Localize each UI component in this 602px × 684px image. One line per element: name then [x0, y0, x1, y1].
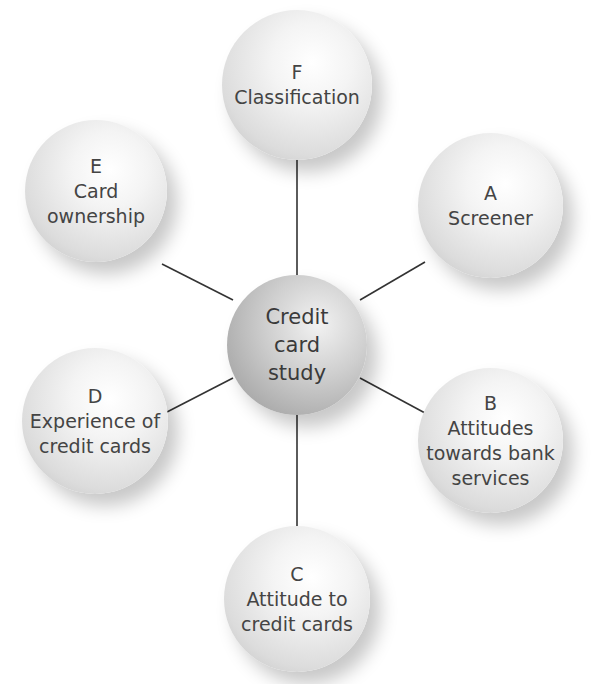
node-e-letter: E: [90, 154, 102, 179]
node-b-label-line-3: services: [452, 466, 530, 491]
center-node-credit-card-study: Credit card study: [227, 275, 367, 415]
node-d-experience-credit-cards: D Experience of credit cards: [22, 348, 168, 494]
center-label-line-3: study: [268, 359, 326, 387]
node-a-letter: A: [484, 181, 497, 206]
node-e-label-line-2: ownership: [47, 204, 145, 229]
node-d-label-line-2: credit cards: [39, 434, 151, 459]
node-c-label-line-2: credit cards: [241, 612, 353, 637]
hub-spoke-diagram: Credit card study F Classification A Scr…: [0, 0, 602, 684]
center-label-line-2: card: [274, 331, 320, 359]
node-e-label-line-1: Card: [74, 179, 118, 204]
center-label-line-1: Credit: [265, 303, 328, 331]
node-b-letter: B: [484, 391, 497, 416]
node-e-card-ownership: E Card ownership: [25, 120, 167, 262]
node-a-screener: A Screener: [418, 133, 563, 278]
node-d-label-line-1: Experience of: [30, 409, 160, 434]
node-c-label-line-1: Attitude to: [246, 587, 347, 612]
node-f-letter: F: [292, 60, 303, 85]
node-f-classification: F Classification: [222, 10, 372, 160]
connector-center-to-b: [360, 378, 425, 413]
node-b-attitudes-bank-services: B Attitudes towards bank services: [418, 368, 563, 513]
node-c-letter: C: [290, 562, 303, 587]
node-b-label-line-2: towards bank: [426, 441, 554, 466]
node-f-label-line-1: Classification: [234, 85, 360, 110]
connector-center-to-e: [162, 264, 233, 300]
node-a-label-line-1: Screener: [448, 206, 533, 231]
connector-center-to-a: [360, 262, 425, 300]
connector-center-to-d: [167, 378, 233, 412]
node-d-letter: D: [88, 384, 103, 409]
node-c-attitude-credit-cards: C Attitude to credit cards: [224, 526, 370, 672]
node-b-label-line-1: Attitudes: [448, 416, 534, 441]
